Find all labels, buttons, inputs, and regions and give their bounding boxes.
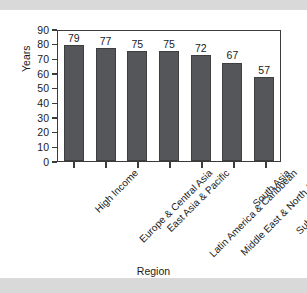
bar[interactable] — [96, 48, 116, 161]
x-axis-labels: High IncomeEurope & Central AsiaEast Asi… — [57, 168, 281, 258]
bar[interactable] — [254, 77, 274, 161]
bar[interactable] — [64, 45, 84, 161]
y-axis-tick-label: 10 — [37, 142, 52, 153]
y-axis-tick-label: 0 — [43, 157, 52, 168]
y-axis-tick-label: 50 — [37, 83, 52, 94]
bar-slot: 57 — [248, 31, 280, 161]
y-axis-tick-label: 80 — [37, 39, 52, 50]
bar-value-label: 72 — [195, 43, 207, 54]
x-axis-category-label: Europe & Central Asia — [138, 168, 215, 245]
x-axis-category-label: High Income — [93, 168, 140, 215]
bar-slot: 77 — [90, 31, 122, 161]
y-axis-tick-label: 20 — [37, 127, 52, 138]
bar-slot: 79 — [58, 31, 90, 161]
y-axis-title: Years — [21, 46, 32, 72]
chart-screenshot: 9080706050403020100 Years 79777575726757… — [0, 0, 307, 293]
bar-slot: 75 — [153, 31, 185, 161]
bar-value-label: 67 — [227, 50, 239, 61]
bar-value-label: 57 — [258, 65, 270, 76]
bar-slot: 75 — [121, 31, 153, 161]
bar[interactable] — [127, 51, 147, 161]
bar-value-label: 75 — [131, 39, 143, 50]
bar[interactable] — [159, 51, 179, 161]
bar[interactable] — [222, 63, 242, 161]
y-axis-tick-label: 90 — [37, 25, 52, 36]
y-axis-tick-label: 30 — [37, 113, 52, 124]
bar-value-label: 77 — [100, 36, 112, 47]
bar-value-label: 75 — [163, 39, 175, 50]
chart-panel: 9080706050403020100 Years 79777575726757… — [0, 10, 307, 278]
plot-area: 79777575726757 — [57, 30, 281, 162]
bar[interactable] — [191, 55, 211, 161]
bar-series: 79777575726757 — [58, 31, 280, 161]
bar-slot: 67 — [217, 31, 249, 161]
bar-slot: 72 — [185, 31, 217, 161]
y-axis-tick-label: 60 — [37, 69, 52, 80]
y-axis-tick-label: 70 — [37, 54, 52, 65]
y-axis-tick-label: 40 — [37, 98, 52, 109]
x-axis-title: Region — [0, 266, 307, 277]
bar-value-label: 79 — [68, 33, 80, 44]
